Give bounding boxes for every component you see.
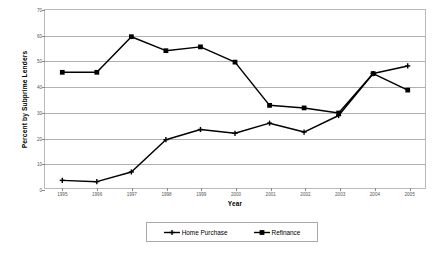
x-tick-mark — [340, 188, 341, 191]
series-line — [62, 37, 407, 113]
x-tick-mark — [305, 188, 306, 191]
x-tick-mark — [97, 188, 98, 191]
data-point-marker — [267, 103, 272, 108]
data-point-marker — [129, 34, 134, 39]
data-point-marker — [336, 111, 341, 116]
legend-entry-home-purchase[interactable]: Home Purchase — [164, 228, 228, 237]
data-point-marker — [60, 178, 65, 183]
legend-label: Home Purchase — [182, 229, 228, 236]
x-tick-label: 1998 — [161, 192, 171, 197]
data-point-marker — [232, 131, 237, 136]
x-tick-mark — [201, 188, 202, 191]
x-tick-label: 2001 — [266, 192, 276, 197]
y-tick-label: 50 — [37, 59, 42, 64]
data-point-marker — [259, 230, 264, 235]
data-point-marker — [169, 229, 174, 234]
x-tick-mark — [410, 188, 411, 191]
y-tick-mark — [42, 190, 45, 191]
y-tick-label: 40 — [37, 85, 42, 90]
subprime-lending-line-chart: Percent by Subprime Lenders 010203040506… — [0, 0, 438, 256]
series-refinance — [60, 34, 410, 115]
y-tick-label: 20 — [37, 136, 42, 141]
x-tick-label: 2004 — [370, 192, 380, 197]
data-point-marker — [198, 44, 203, 49]
plot-area: 010203040506070 199519961997199819992000… — [44, 9, 426, 189]
x-tick-mark — [375, 188, 376, 191]
data-point-marker — [94, 70, 99, 75]
x-tick-mark — [62, 188, 63, 191]
x-axis-title: Year — [44, 200, 426, 207]
x-tick-label: 2000 — [231, 192, 241, 197]
data-point-marker — [94, 179, 99, 184]
plus-marker-icon — [164, 228, 180, 237]
square-marker-icon — [254, 228, 270, 237]
x-tick-label: 1999 — [196, 192, 206, 197]
data-point-marker — [302, 129, 307, 134]
y-tick-label: 0 — [39, 188, 42, 193]
data-point-marker — [267, 121, 272, 126]
x-tick-label: 1997 — [127, 192, 137, 197]
x-tick-mark — [271, 188, 272, 191]
y-tick-label: 70 — [37, 8, 42, 13]
x-tick-label: 1996 — [92, 192, 102, 197]
x-tick-mark — [167, 188, 168, 191]
data-point-marker — [405, 88, 410, 93]
data-point-marker — [405, 63, 410, 68]
data-point-marker — [233, 60, 238, 65]
x-tick-label: 1995 — [57, 192, 67, 197]
y-tick-label: 60 — [37, 33, 42, 38]
x-tick-mark — [236, 188, 237, 191]
x-tick-label: 2005 — [405, 192, 415, 197]
data-point-marker — [371, 71, 376, 76]
data-series-layer — [45, 10, 425, 188]
series-home-purchase — [60, 63, 411, 184]
legend-label: Refinance — [272, 229, 301, 236]
y-tick-label: 30 — [37, 110, 42, 115]
legend-entry-refinance[interactable]: Refinance — [254, 228, 301, 237]
y-axis-title: Percent by Subprime Lenders — [21, 20, 28, 180]
data-point-marker — [198, 127, 203, 132]
data-point-marker — [164, 48, 169, 53]
series-line — [62, 66, 407, 182]
y-tick-label: 10 — [37, 162, 42, 167]
data-point-marker — [60, 70, 65, 75]
chart-legend: Home PurchaseRefinance — [146, 222, 318, 242]
x-tick-mark — [132, 188, 133, 191]
x-tick-label: 2003 — [335, 192, 345, 197]
x-tick-label: 2002 — [300, 192, 310, 197]
data-point-marker — [302, 106, 307, 111]
